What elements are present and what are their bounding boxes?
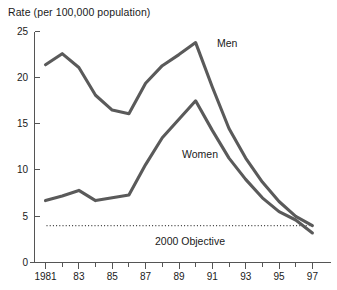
- x-tick-label-97: 97: [307, 271, 319, 282]
- series-line-women: [46, 101, 313, 233]
- y-tick-label-15: 15: [17, 118, 29, 129]
- y-tick-label-20: 20: [17, 72, 29, 83]
- x-tick-label-83: 83: [73, 271, 85, 282]
- series-line-men: [46, 43, 313, 226]
- chart-container: Rate (per 100,000 population) 25 20 15 1…: [0, 0, 337, 290]
- x-tick-label-1981: 1981: [34, 271, 57, 282]
- x-tick-label-91: 91: [207, 271, 219, 282]
- x-tick-label-89: 89: [173, 271, 185, 282]
- x-tick-label-85: 85: [107, 271, 119, 282]
- y-tick-label-5: 5: [22, 211, 28, 222]
- x-axis-ticks: [46, 263, 313, 269]
- x-tick-label-87: 87: [140, 271, 152, 282]
- series-label-women: Women: [182, 148, 218, 160]
- x-tick-label-93: 93: [240, 271, 252, 282]
- objective-label: 2000 Objective: [155, 235, 225, 247]
- y-axis-labels: 25 20 15 10 5 0: [17, 26, 29, 268]
- x-axis-labels: 1981 83 85 87 89 91 93 95 97: [34, 271, 318, 282]
- y-tick-label-10: 10: [17, 164, 29, 175]
- y-tick-label-25: 25: [17, 26, 29, 37]
- y-tick-label-0: 0: [22, 257, 28, 268]
- series-label-men: Men: [217, 37, 238, 49]
- x-tick-label-95: 95: [273, 271, 285, 282]
- line-chart-plot: 25 20 15 10 5 0: [0, 0, 337, 290]
